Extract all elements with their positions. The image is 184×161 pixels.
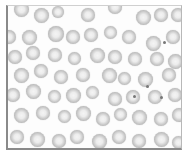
red-blood-cell <box>172 136 182 149</box>
red-blood-cell <box>168 88 182 102</box>
red-blood-cell <box>150 52 164 66</box>
red-blood-cell <box>108 92 122 106</box>
red-blood-cell <box>34 64 48 78</box>
red-blood-cell <box>70 130 84 144</box>
platelet-dot <box>160 96 163 99</box>
red-blood-cell <box>104 26 117 39</box>
red-blood-cell <box>146 36 161 51</box>
red-blood-cell <box>172 108 182 122</box>
platelet-dot <box>146 85 149 88</box>
red-blood-cell <box>14 68 29 83</box>
red-blood-cell <box>26 46 40 60</box>
red-blood-cell <box>52 134 66 148</box>
red-blood-cell <box>6 30 16 44</box>
red-blood-cell <box>166 30 180 44</box>
platelet-dot <box>133 95 136 98</box>
red-blood-cell <box>66 30 80 44</box>
red-blood-cell <box>54 70 68 84</box>
red-blood-cell <box>136 10 151 25</box>
red-blood-cell <box>48 90 61 103</box>
red-blood-cell <box>108 50 122 64</box>
red-blood-cell <box>108 5 122 14</box>
red-blood-cell <box>154 8 168 22</box>
red-blood-cell <box>118 72 131 85</box>
red-blood-cell <box>114 108 127 121</box>
red-blood-cell <box>168 54 182 69</box>
red-blood-cell <box>92 134 107 149</box>
red-blood-cell <box>58 110 71 123</box>
red-blood-cell <box>128 52 142 66</box>
red-blood-cell <box>76 106 91 121</box>
red-blood-cell <box>81 8 95 22</box>
red-blood-cell <box>171 8 182 22</box>
red-blood-cell <box>6 88 20 102</box>
red-blood-cell <box>30 132 45 147</box>
red-blood-cell <box>14 5 29 17</box>
red-blood-cell <box>162 68 176 82</box>
red-blood-cell <box>76 68 90 82</box>
red-blood-cell <box>34 8 49 23</box>
red-blood-cell <box>26 84 41 99</box>
red-blood-cell <box>10 130 24 144</box>
red-blood-cell <box>36 106 50 120</box>
red-blood-cell <box>132 134 146 148</box>
red-blood-cell <box>154 132 169 147</box>
red-blood-cell <box>96 112 110 126</box>
red-blood-cell <box>84 28 98 42</box>
red-blood-cell <box>122 30 136 44</box>
red-blood-cell <box>48 26 64 42</box>
red-blood-cell <box>48 48 62 62</box>
red-blood-cell <box>66 88 81 103</box>
red-blood-cell <box>68 52 81 65</box>
red-blood-cell <box>8 50 22 64</box>
red-blood-cell <box>52 6 64 18</box>
red-blood-cell <box>132 110 147 125</box>
red-blood-cell <box>112 130 126 144</box>
micrograph-frame <box>6 5 182 150</box>
red-blood-cell <box>154 112 168 126</box>
platelet-dot <box>163 41 166 44</box>
red-blood-cell <box>86 86 99 99</box>
red-blood-cell <box>102 68 117 83</box>
red-blood-cell <box>14 108 29 123</box>
red-blood-cell <box>22 30 37 45</box>
red-blood-cell <box>90 48 105 63</box>
